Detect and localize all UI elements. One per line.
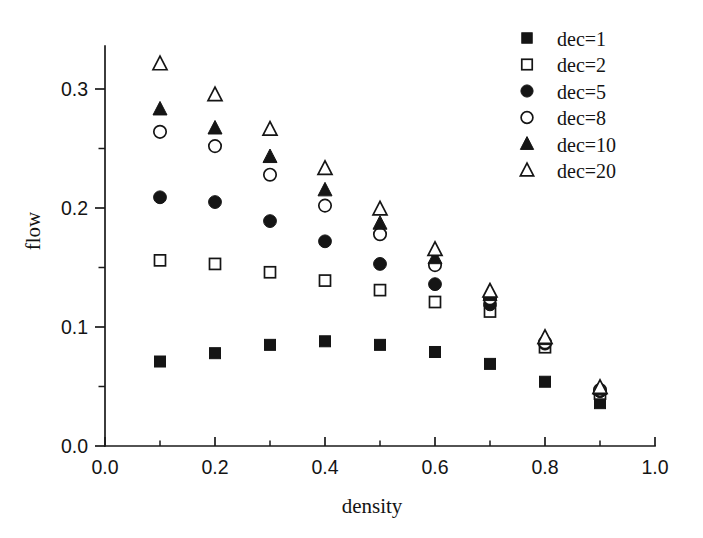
open-circle-marker (521, 112, 533, 124)
filled-triangle-marker (318, 182, 332, 196)
legend: dec=1dec=2dec=5dec=8dec=10dec=20 (520, 28, 616, 183)
open-triangle-marker (483, 284, 497, 298)
filled-square-marker (265, 339, 276, 350)
open-circle-marker (154, 126, 166, 138)
open-square-marker (320, 275, 331, 286)
y-axis-title: flow (21, 211, 45, 250)
x-axis-title: density (342, 494, 403, 518)
x-axis-tick-label: 0.8 (531, 456, 558, 478)
x-axis-tick-label: 0.4 (311, 456, 338, 478)
open-triangle-marker (263, 122, 277, 136)
filled-circle-marker (429, 278, 442, 291)
y-axis-tick-label: 0.0 (61, 435, 88, 457)
open-triangle-marker (153, 56, 167, 70)
legend-label: dec=1 (557, 28, 606, 50)
scatter-plot: 0.00.20.40.60.81.00.00.10.20.3 densityfl… (0, 0, 703, 538)
legend-item-dec-1: dec=1 (522, 28, 606, 50)
x-axis-tick-label: 1.0 (641, 456, 668, 478)
filled-square-marker (430, 346, 441, 357)
x-axis-tick-label: 0.2 (201, 456, 228, 478)
filled-square-marker (375, 339, 386, 350)
filled-square-marker (155, 356, 166, 367)
legend-item-dec-2: dec=2 (522, 54, 606, 76)
open-circle-marker (374, 228, 386, 240)
open-triangle-marker (538, 330, 552, 344)
filled-triangle-marker (153, 101, 167, 115)
open-triangle-marker (208, 87, 222, 101)
open-triangle-marker (318, 161, 332, 175)
open-square-marker (375, 285, 386, 296)
filled-circle-marker (209, 196, 222, 209)
y-axis-tick-label: 0.2 (61, 197, 88, 219)
open-triangle-marker (520, 163, 533, 176)
filled-circle-marker (319, 235, 332, 248)
filled-square-marker (320, 336, 331, 347)
filled-square-marker (540, 376, 551, 387)
legend-item-dec-20: dec=20 (520, 160, 616, 182)
legend-label: dec=10 (557, 134, 616, 156)
filled-square-marker (210, 348, 221, 359)
open-circle-marker (319, 199, 331, 211)
legend-label: dec=5 (557, 81, 606, 103)
open-circle-marker (264, 168, 276, 180)
legend-item-dec-8: dec=8 (521, 107, 606, 129)
chart-figure: 0.00.20.40.60.81.00.00.10.20.3 densityfl… (0, 0, 703, 538)
legend-label: dec=2 (557, 54, 606, 76)
filled-triangle-marker (373, 216, 387, 230)
series-dec-2 (155, 255, 606, 399)
legend-label: dec=20 (557, 160, 616, 182)
open-square-marker (430, 297, 441, 308)
filled-circle-marker (521, 85, 533, 97)
legend-item-dec-10: dec=10 (520, 134, 616, 156)
data-points (153, 56, 607, 408)
filled-circle-marker (374, 258, 387, 271)
filled-circle-marker (264, 215, 277, 228)
x-axis-tick-label: 0.0 (91, 456, 118, 478)
legend-item-dec-5: dec=5 (521, 81, 606, 103)
open-triangle-marker (428, 242, 442, 256)
legend-label: dec=8 (557, 107, 606, 129)
open-square-marker (155, 255, 166, 266)
filled-triangle-marker (263, 149, 277, 163)
open-square-marker (265, 267, 276, 278)
filled-triangle-marker (208, 120, 222, 134)
open-square-marker (210, 258, 221, 269)
x-axis-tick-label: 0.6 (421, 456, 448, 478)
filled-circle-marker (154, 191, 167, 204)
filled-triangle-marker (520, 137, 533, 150)
series-dec-1 (155, 336, 606, 409)
y-axis-tick-label: 0.3 (61, 78, 88, 100)
open-square-marker (522, 59, 532, 69)
filled-square-marker (485, 358, 496, 369)
filled-square-marker (522, 33, 532, 43)
open-triangle-marker (373, 201, 387, 215)
y-axis-tick-label: 0.1 (61, 316, 88, 338)
open-circle-marker (209, 140, 221, 152)
